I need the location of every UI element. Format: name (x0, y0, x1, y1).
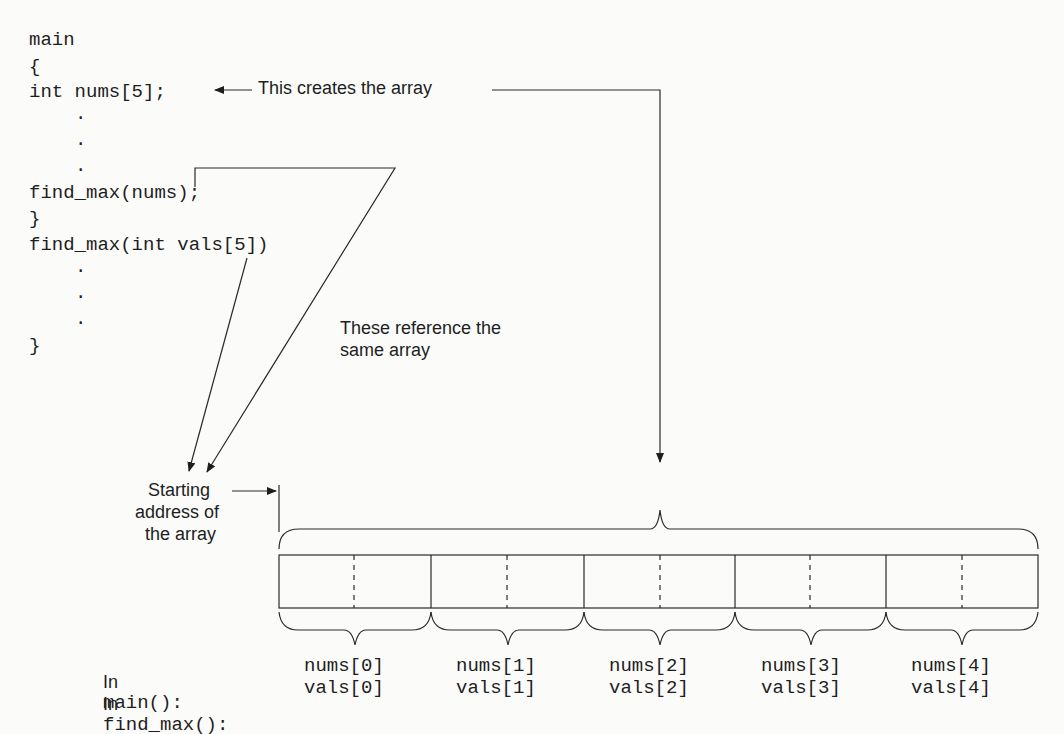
nums-1: nums[1] (456, 656, 536, 676)
element-brace (431, 612, 584, 645)
element-brace (584, 612, 735, 645)
element-brace (279, 612, 431, 645)
vals-3: vals[3] (761, 678, 841, 698)
array-box (279, 555, 1038, 608)
nums-4: nums[4] (911, 656, 991, 676)
vals-2: vals[2] (609, 678, 689, 698)
row-prefix: In (103, 694, 118, 714)
vals-1: vals[1] (456, 678, 536, 698)
vals-4: vals[4] (911, 678, 991, 698)
call-connector (195, 168, 395, 472)
vals-0: vals[0] (304, 678, 384, 698)
row-fn: find_max(): (103, 714, 228, 734)
diagram-lines (0, 0, 1064, 734)
vals-connector (189, 258, 247, 471)
row-label-find-max: In find_max(): (95, 676, 228, 734)
nums-3: nums[3] (761, 656, 841, 676)
element-brace (735, 612, 886, 645)
nums-0: nums[0] (304, 656, 384, 676)
nums-2: nums[2] (609, 656, 689, 676)
element-brace (886, 612, 1038, 645)
creates-connector (492, 90, 660, 462)
top-brace (279, 510, 1038, 549)
